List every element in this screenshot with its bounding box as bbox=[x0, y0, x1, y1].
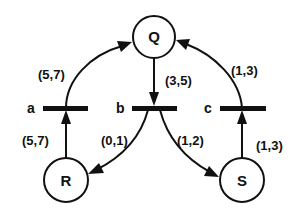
arc-label-q-b: (3,5) bbox=[165, 73, 192, 88]
arc-label-r-a: (5,7) bbox=[22, 133, 49, 148]
transition-bar-a bbox=[43, 106, 88, 111]
arrow-head-icon bbox=[176, 39, 190, 50]
place-label-q: Q bbox=[148, 28, 160, 45]
arc-a-to-q bbox=[66, 46, 122, 108]
arc-label-s-c: (1,3) bbox=[256, 138, 283, 153]
arrow-head-icon bbox=[88, 163, 104, 174]
place-label-r: R bbox=[61, 172, 72, 189]
transition-label-c: c bbox=[204, 100, 212, 116]
arrow-head-icon bbox=[149, 92, 159, 106]
place-label-s: S bbox=[237, 172, 247, 189]
transition-label-a: a bbox=[27, 100, 35, 116]
transition-bar-b bbox=[132, 106, 177, 111]
arrow-head-icon bbox=[117, 41, 132, 52]
arc-label-b-s: (1,2) bbox=[177, 133, 204, 148]
transition-bar-c bbox=[220, 106, 266, 111]
arrow-head-icon bbox=[204, 166, 219, 177]
arc-label-a-q: (5,7) bbox=[38, 67, 65, 82]
petri-net-diagram: a b c Q R S (5,7) (5,7) (3,5) (0,1) (1,2… bbox=[0, 0, 296, 216]
arc-label-c-q: (1,3) bbox=[231, 63, 258, 78]
arrow-head-icon bbox=[237, 110, 247, 124]
arc-label-b-r: (0,1) bbox=[101, 133, 128, 148]
transition-label-b: b bbox=[116, 100, 125, 116]
arrow-head-icon bbox=[61, 110, 71, 124]
